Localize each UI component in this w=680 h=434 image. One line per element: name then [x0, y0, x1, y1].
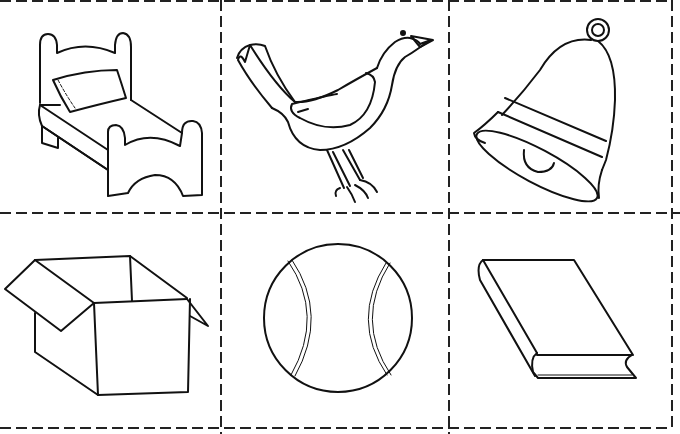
- card-box: [0, 213, 221, 428]
- card-bed: [0, 0, 221, 213]
- card-ball: [221, 213, 449, 428]
- card-book: [449, 213, 672, 428]
- picture-card-sheet: [0, 0, 680, 434]
- card-bird: [221, 0, 449, 213]
- card-bell: [449, 0, 672, 213]
